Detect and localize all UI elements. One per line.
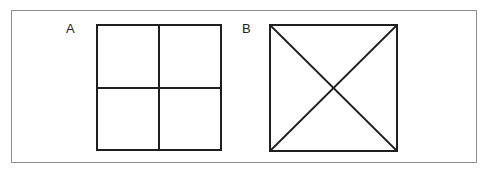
shape-square-diagonals-b bbox=[267, 22, 404, 159]
panel-label-a: A bbox=[66, 22, 75, 35]
figure-outer-border: A B bbox=[11, 10, 477, 163]
shape-square-quadrants-a bbox=[94, 22, 228, 158]
panel-label-b: B bbox=[242, 22, 251, 35]
figure-canvas: A B bbox=[0, 0, 489, 175]
